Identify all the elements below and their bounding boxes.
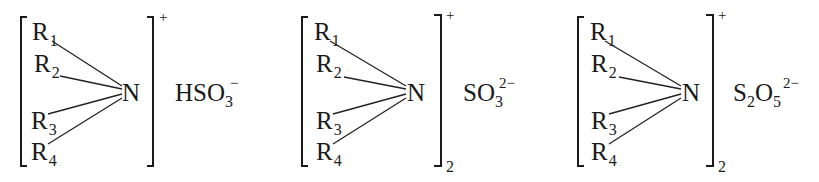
substituent-r3: R3 xyxy=(591,107,617,138)
structure-metabisulfite: R1 R2 R3 R4 N + 2 S2O5 2− xyxy=(578,7,799,175)
substituent-r2: R2 xyxy=(34,50,60,81)
bond-r1-n xyxy=(52,41,122,86)
bond-r4-n xyxy=(48,98,122,144)
substituent-r4: R4 xyxy=(591,138,617,169)
substituent-r4: R4 xyxy=(31,138,57,169)
substituent-r2: R2 xyxy=(316,50,342,81)
anion-sulfite: SO3 xyxy=(463,79,503,110)
bond-r3-n xyxy=(48,94,122,114)
anion-bisulfite: HSO3 xyxy=(175,79,233,110)
bond-r3-n xyxy=(609,94,681,114)
nitrogen-atom: N xyxy=(407,79,425,106)
bond-r4-n xyxy=(609,98,681,144)
right-bracket xyxy=(147,17,153,166)
substituent-r1: R1 xyxy=(32,18,58,49)
cation-multiplier: 2 xyxy=(718,158,726,175)
structure-sulfite: R1 R2 R3 R4 N + 2 SO3 2− xyxy=(302,7,515,175)
bond-r2-n xyxy=(619,77,681,89)
anion-charge: − xyxy=(230,75,238,91)
bond-r2-n xyxy=(344,77,406,89)
right-bracket xyxy=(434,15,441,166)
anion-charge: 2− xyxy=(783,75,799,91)
substituent-r3: R3 xyxy=(31,107,57,138)
cation-charge: + xyxy=(446,7,454,23)
anion-metabisulfite: S2O5 xyxy=(733,79,781,110)
cation-charge: + xyxy=(718,7,726,23)
substituent-r3: R3 xyxy=(316,107,342,138)
nitrogen-atom: N xyxy=(122,79,140,106)
substituent-r2: R2 xyxy=(591,50,617,81)
left-bracket xyxy=(578,17,584,166)
bond-r4-n xyxy=(333,98,406,144)
cation-charge: + xyxy=(159,9,167,25)
left-bracket xyxy=(21,17,27,166)
anion-charge: 2− xyxy=(499,75,515,91)
bond-r3-n xyxy=(333,94,406,114)
substituent-r4: R4 xyxy=(316,138,342,169)
quaternary-ammonium-salts-diagram: R1 R2 R3 R4 N + HSO3 − R1 R2 R3 R4 N + 2… xyxy=(0,0,819,182)
nitrogen-atom: N xyxy=(682,79,700,106)
left-bracket xyxy=(302,17,308,166)
structure-bisulfite: R1 R2 R3 R4 N + HSO3 − xyxy=(21,9,238,169)
right-bracket xyxy=(706,15,713,166)
bond-r2-n xyxy=(60,76,122,89)
cation-multiplier: 2 xyxy=(446,158,454,175)
